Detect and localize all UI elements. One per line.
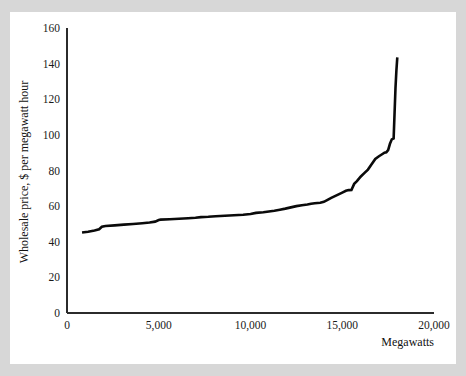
y-tick-label: 100: [43, 129, 61, 141]
y-tick-label: 60: [49, 200, 61, 212]
y-tick-label: 140: [43, 58, 61, 70]
y-tick-label: 20: [49, 271, 61, 283]
supply-curve-line: [82, 57, 397, 232]
y-tick-label: 160: [43, 22, 61, 34]
x-tick-label: 0: [64, 319, 70, 331]
x-axis-tick-labels: 05,00010,00015,00020,000: [64, 319, 450, 332]
x-tick-label: 10,000: [235, 319, 267, 332]
figure-card: 020406080100120140160 05,00010,00015,000…: [10, 12, 456, 364]
chart-plot-area: 020406080100120140160 05,00010,00015,000…: [10, 12, 456, 364]
page-bleed-text: [0, 0, 466, 6]
y-axis-title: Wholesale price, $ per megawatt hour: [17, 81, 31, 264]
x-tick-label: 15,000: [326, 319, 358, 332]
x-tick-label: 20,000: [418, 319, 450, 332]
x-axis-title: Megawatts: [381, 335, 434, 349]
y-tick-label: 0: [54, 307, 60, 319]
supply-curve-chart: 020406080100120140160 05,00010,00015,000…: [10, 12, 456, 364]
y-tick-label: 40: [49, 236, 61, 248]
y-tick-label: 120: [43, 93, 61, 105]
x-tick-label: 5,000: [146, 319, 172, 332]
y-tick-label: 80: [49, 165, 61, 177]
y-axis-tick-labels: 020406080100120140160: [43, 22, 61, 319]
